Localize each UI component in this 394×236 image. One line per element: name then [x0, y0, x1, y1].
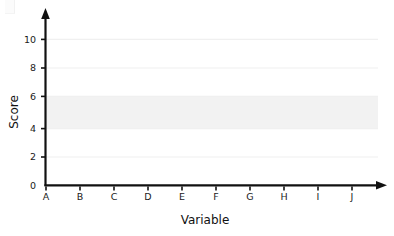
x-tick-label-h: H — [280, 191, 287, 202]
x-tick-label-a: A — [43, 191, 50, 202]
x-axis-arrow-icon — [376, 181, 387, 190]
y-tick-label-4: 4 — [30, 123, 36, 134]
y-tick-label-6: 6 — [30, 91, 36, 102]
chart-container: 10 8 6 4 2 0 A B C D E F G H I J Score — [0, 0, 394, 236]
x-tick-label-e: E — [179, 191, 185, 202]
y-axis-arrow-icon — [41, 8, 50, 19]
x-tick-mark-group — [46, 186, 352, 190]
y-tick-label-8: 8 — [30, 62, 36, 73]
y-tick-label-2: 2 — [30, 151, 36, 162]
chart-canvas: 10 8 6 4 2 0 A B C D E F G H I J Score — [0, 0, 394, 236]
y-tick-label-0: 0 — [30, 180, 36, 191]
x-tick-label-f: F — [213, 191, 218, 202]
x-tick-label-i: I — [317, 191, 320, 202]
x-axis-title: Variable — [181, 213, 230, 227]
y-axis-title: Score — [7, 95, 21, 129]
y-tick-label-10: 10 — [24, 34, 36, 45]
x-tick-label-c: C — [111, 191, 118, 202]
reference-band — [45, 96, 378, 128]
x-tick-label-g: G — [246, 191, 253, 202]
x-tick-label-d: D — [144, 191, 151, 202]
x-tick-label-b: B — [77, 191, 84, 202]
x-tick-label-j: J — [350, 191, 354, 202]
